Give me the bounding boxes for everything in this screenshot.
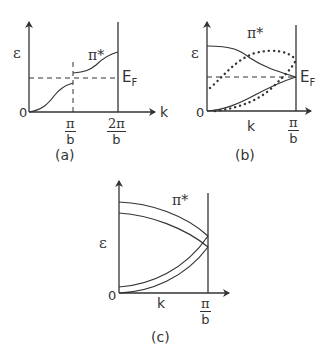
- pi-star-label: π*: [172, 193, 188, 207]
- pi-over-b-tick: πb: [288, 116, 299, 145]
- fermi-energy-label: EF: [300, 70, 315, 85]
- dotted-band-upper: [210, 51, 296, 88]
- caption-c: (c): [151, 330, 170, 344]
- origin-label: 0: [108, 289, 116, 302]
- k-axis-label: k: [247, 119, 255, 133]
- two-pi-over-b-tick: 2πb: [107, 117, 126, 146]
- pi-star-label: π*: [88, 48, 104, 62]
- upper-band-solid: [207, 46, 296, 77]
- pi-over-b-tick: πb: [200, 297, 211, 326]
- panel-a: [29, 22, 155, 112]
- fermi-energy-label: EF: [122, 70, 137, 85]
- pi-over-b-tick: πb: [65, 117, 76, 146]
- origin-label: 0: [196, 106, 204, 119]
- pi-star-label: π*: [247, 26, 263, 40]
- energy-axis-label: ε: [191, 46, 199, 61]
- energy-axis-label: ε: [13, 46, 21, 61]
- lower-band-curve: [29, 83, 73, 112]
- energy-axis-label: ε: [99, 236, 107, 251]
- k-axis-label: k: [160, 105, 168, 119]
- caption-b: (b): [235, 148, 255, 162]
- lower-band-solid: [207, 77, 296, 111]
- lower-band-b: [119, 247, 208, 293]
- origin-label: 0: [19, 106, 27, 119]
- upper-band-b: [119, 213, 208, 247]
- upper-band-a: [119, 202, 208, 236]
- caption-a: (a): [55, 148, 75, 162]
- band-structure-diagram: [0, 0, 334, 357]
- k-axis-label: k: [157, 296, 165, 310]
- dotted-band-lower: [215, 60, 296, 111]
